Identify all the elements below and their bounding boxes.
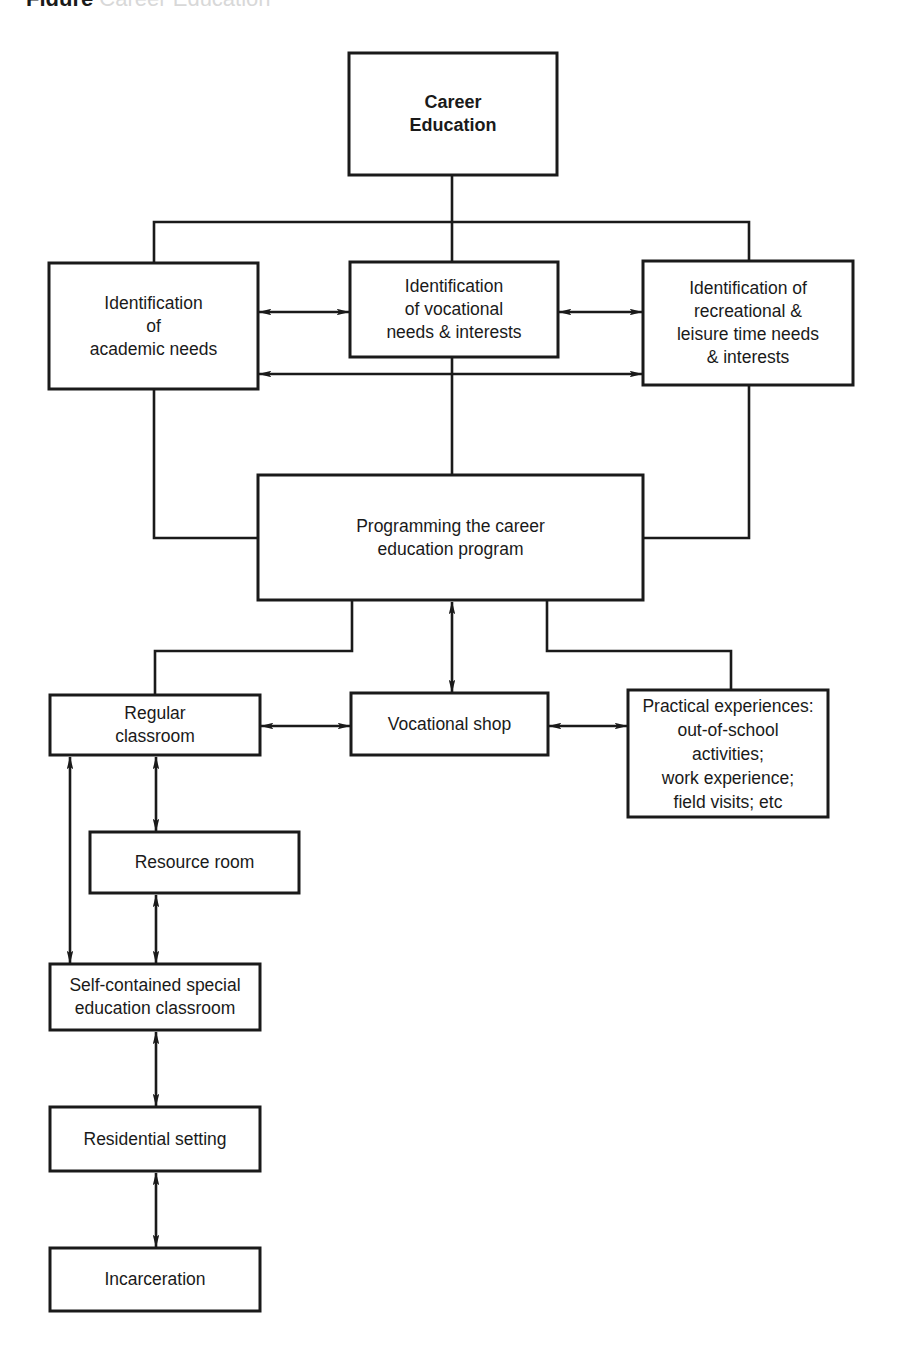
label-self-contained: Self-contained specialeducation classroo…: [50, 964, 260, 1030]
label-career-education: CareerEducation: [349, 53, 557, 175]
label-programming: Programming the careereducation program: [258, 475, 643, 600]
label-regular-classroom: Regularclassroom: [50, 695, 260, 755]
label-recreational: Identification ofrecreational &leisure t…: [643, 261, 853, 385]
label-academic: Identificationofacademic needs: [49, 263, 258, 389]
label-resource-room: Resource room: [90, 832, 299, 893]
label-residential: Residential setting: [50, 1107, 260, 1171]
label-vocational-shop: Vocational shop: [351, 693, 548, 755]
label-incarceration: Incarceration: [50, 1248, 260, 1311]
label-vocational: Identificationof vocationalneeds & inter…: [350, 262, 558, 357]
connector-programming-to-settings: [155, 600, 731, 695]
connector-root-to-identification: [154, 175, 749, 263]
label-practical-experiences: Practical experiences:out-of-schoolactiv…: [628, 690, 828, 817]
